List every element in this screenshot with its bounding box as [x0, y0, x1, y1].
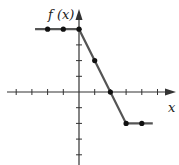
y-axis-arrow-icon: [76, 9, 83, 20]
x-axis-arrow-icon: [165, 89, 176, 96]
data-point: [139, 121, 144, 126]
data-point: [45, 27, 50, 32]
chart: f (x) x: [0, 0, 179, 165]
data-point: [76, 27, 81, 32]
data-point: [61, 27, 66, 32]
data-point: [124, 121, 129, 126]
data-point: [92, 58, 97, 63]
y-axis-label: f (x): [47, 7, 74, 22]
function-line: [35, 29, 153, 123]
data-point: [108, 89, 113, 94]
x-axis-label: x: [168, 100, 176, 115]
data-markers: [45, 27, 144, 126]
